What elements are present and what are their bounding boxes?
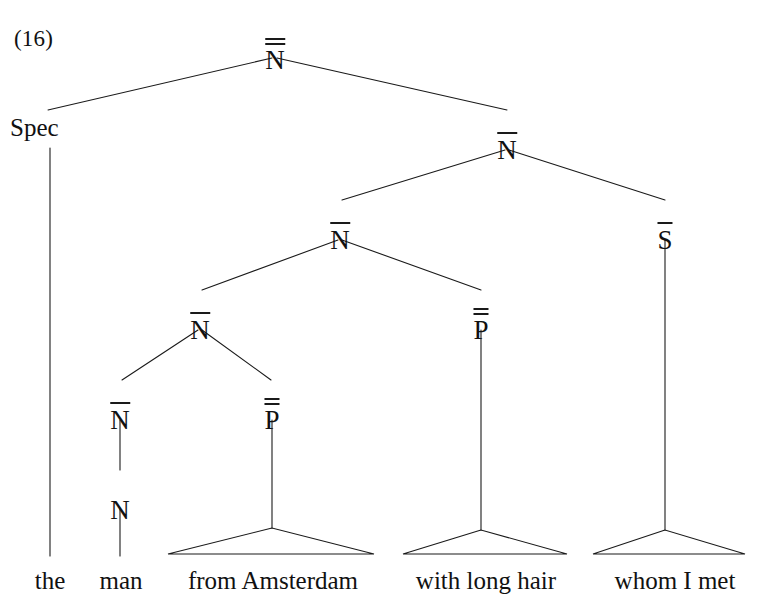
overbar-2 [265,43,285,45]
overbar-1 [473,308,488,310]
node-n_head: N [110,488,130,524]
root-to-spec [48,58,272,110]
node-label-text: N [190,308,210,344]
phrase-triangles [168,528,745,554]
nbar-mid-to-nbar-low [202,240,338,290]
terminal-from-amsterdam: from Amsterdam [188,568,358,593]
branch-lines [48,58,665,556]
node-spec: Spec [10,115,59,140]
from-amsterdam-triangle [168,528,374,554]
node-label-text: N [265,38,285,74]
whom-i-met-triangle [593,530,745,554]
overbar-2 [473,313,488,315]
node-label-text: P [264,398,279,434]
nbar-top-to-sbar [509,150,665,200]
node-label-text: Spec [10,114,59,141]
overbar-1 [497,132,517,134]
node-label-text: N [330,218,350,254]
node-nbar_bottom: N [110,398,130,434]
node-label-text: N [110,488,130,524]
nbar-mid-to-pp-mid [342,240,481,290]
node-nbar_low: N [190,308,210,344]
node-label-text: S [657,218,672,254]
with-long-hair-triangle [403,530,567,554]
example-number: (16) [14,26,53,52]
node-pp_mid: P [473,308,488,344]
node-nbar_mid: N [330,218,350,254]
node-sbar: S [657,218,672,254]
node-pp_low: P [264,398,279,434]
node-label-text: P [473,308,488,344]
root-to-nbar-top [277,58,507,110]
terminal-whom-i-met: whom I met [615,568,736,593]
overbar-1 [657,222,672,224]
terminal-man: man [99,568,142,593]
syntactic-tree-figure: (16) NSpecNNSNPNPN themanfrom Amsterdamw… [0,0,763,608]
terminal-with-long-hair: with long hair [416,568,556,593]
terminal-the: the [35,568,66,593]
nbar-low-to-pp-low [202,330,271,380]
nbar-top-to-nbar-mid [342,150,505,200]
node-root: N [265,38,285,74]
overbar-1 [330,222,350,224]
node-label-text: N [497,128,517,164]
overbar-1 [264,398,279,400]
nbar-low-to-nbar-bottom [122,330,198,380]
node-nbar_top: N [497,128,517,164]
node-label-text: N [110,398,130,434]
overbar-1 [110,402,130,404]
overbar-1 [190,312,210,314]
overbar-2 [264,403,279,405]
overbar-1 [265,38,285,40]
